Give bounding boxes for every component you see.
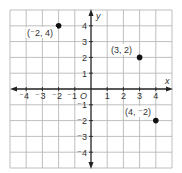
y-tick-label: ⁻2: [77, 116, 87, 126]
y-tick-label: ⁻4: [77, 148, 87, 158]
x-tick-labels: ⁻4 ⁻3 ⁻2 ⁻1 1 2 3 4: [19, 91, 158, 101]
point-label-3-2: (3, 2): [111, 45, 132, 55]
x-tick-label: 1: [105, 91, 110, 101]
point-3-2: [137, 55, 143, 61]
x-axis-left-arrow-icon: [10, 87, 17, 92]
x-tick-label: ⁻1: [67, 91, 77, 101]
y-tick-label: 2: [82, 53, 87, 63]
x-tick-label: ⁻4: [19, 91, 29, 101]
point-label-neg2-4: (⁻2, 4): [27, 28, 53, 38]
y-tick-label: 1: [82, 69, 87, 79]
y-tick-label: ⁻1: [77, 100, 87, 110]
y-tick-label: 4: [82, 21, 87, 31]
y-tick-label: 3: [82, 37, 87, 47]
y-tick-label: ⁻3: [77, 132, 87, 142]
coordinate-plane: x y O ⁻4 ⁻3 ⁻2 ⁻1 1 2 3 4 4 3 2 1 ⁻1 ⁻2 …: [0, 0, 182, 173]
x-tick-label: 2: [121, 91, 126, 101]
x-tick-label: 3: [137, 91, 142, 101]
x-tick-label: ⁻2: [52, 91, 62, 101]
x-tick-label: 4: [153, 91, 158, 101]
y-axis-label: y: [95, 11, 101, 21]
x-axis-label: x: [164, 76, 170, 86]
x-tick-label: ⁻3: [35, 91, 45, 101]
point-label-4-neg2: (4, ⁻2): [125, 107, 151, 117]
point-4-neg2: [153, 118, 159, 124]
